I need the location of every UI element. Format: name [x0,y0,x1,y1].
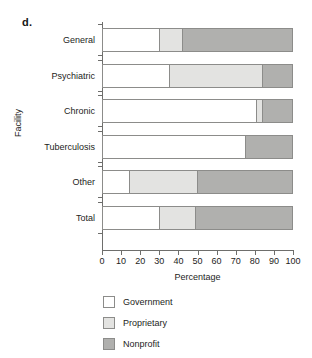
x-axis-tick-label: 70 [231,256,241,266]
bar-segment-nonprofit [262,99,293,123]
stacked-bar [102,206,293,230]
y-axis-tick [98,197,102,198]
x-axis-tick-label: 0 [99,256,104,266]
legend-swatch-government [103,296,115,308]
x-axis-tick [121,251,122,255]
x-axis-tick [255,251,256,255]
bar-segment-government [102,206,160,230]
x-axis-tick-label: 40 [173,256,183,266]
legend-label-nonprofit: Nonprofit [123,339,160,349]
category-label-other: Other [72,177,95,187]
legend-label-government: Government [123,297,173,307]
stacked-bar [102,170,293,194]
legend-item-nonprofit: Nonprofit [103,333,173,354]
y-axis-tick [98,131,102,132]
legend-swatch-nonprofit [103,338,115,350]
bar-segment-government [102,28,160,52]
x-axis-tick [102,251,103,255]
y-axis-title: Facility [13,93,23,153]
x-axis-tick-label: 10 [116,256,126,266]
bar-segment-nonprofit [245,135,294,159]
y-axis-tick [98,55,102,56]
y-axis-tick [98,202,102,203]
bar-row-general: General [102,28,293,52]
bar-segment-proprietary [159,28,183,52]
bar-row-tuberculosis: Tuberculosis [102,135,293,159]
bar-segment-government [102,170,130,194]
y-axis-tick [98,95,102,96]
bar-segment-nonprofit [182,28,293,52]
stacked-bar [102,135,293,159]
x-axis-tick-label: 100 [285,256,300,266]
legend-label-proprietary: Proprietary [123,318,167,328]
x-axis-tick [178,251,179,255]
chart-legend: GovernmentProprietaryNonprofit [103,291,173,354]
category-label-chronic: Chronic [64,106,95,116]
bar-segment-nonprofit [195,206,293,230]
bar-row-psychiatric: Psychiatric [102,64,293,88]
x-axis-tick-label: 80 [250,256,260,266]
bar-segment-nonprofit [197,170,293,194]
bar-segment-government [102,99,257,123]
x-axis-tick [274,251,275,255]
y-axis-tick [98,166,102,167]
bar-segment-government [102,64,170,88]
bar-segment-proprietary [169,64,263,88]
category-label-total: Total [76,213,95,223]
panel-letter: d. [22,16,32,28]
bar-row-other: Other [102,170,293,194]
x-axis-tick [293,251,294,255]
y-axis-tick [98,126,102,127]
bar-segment-nonprofit [262,64,293,88]
y-axis-tick [98,60,102,61]
y-axis-tick [98,24,102,25]
legend-swatch-proprietary [103,317,115,329]
x-axis-tick [217,251,218,255]
y-axis-tick [98,162,102,163]
category-label-tuberculosis: Tuberculosis [44,142,95,152]
x-axis-tick [236,251,237,255]
bar-segment-proprietary [159,206,196,230]
x-axis-tick-label: 30 [154,256,164,266]
x-axis-tick [140,251,141,255]
category-label-psychiatric: Psychiatric [51,71,95,81]
bar-segment-government [102,135,246,159]
x-axis-tick-label: 20 [135,256,145,266]
legend-item-proprietary: Proprietary [103,312,173,333]
stacked-bar-chart-plot-area: GeneralPsychiatricChronicTuberculosisOth… [102,22,293,250]
category-label-general: General [63,35,95,45]
x-axis-title: Percentage [102,272,293,282]
legend-item-government: Government [103,291,173,312]
bar-row-chronic: Chronic [102,99,293,123]
stacked-bar [102,28,293,52]
bar-segment-proprietary [129,170,198,194]
stacked-bar [102,64,293,88]
stacked-bar [102,99,293,123]
y-axis-tick [98,91,102,92]
bar-row-total: Total [102,206,293,230]
x-axis-tick-label: 60 [212,256,222,266]
x-axis-tick [159,251,160,255]
y-axis-tick [98,233,102,234]
x-axis-tick-label: 90 [269,256,279,266]
x-axis-tick [198,251,199,255]
x-axis-tick-label: 50 [192,256,202,266]
